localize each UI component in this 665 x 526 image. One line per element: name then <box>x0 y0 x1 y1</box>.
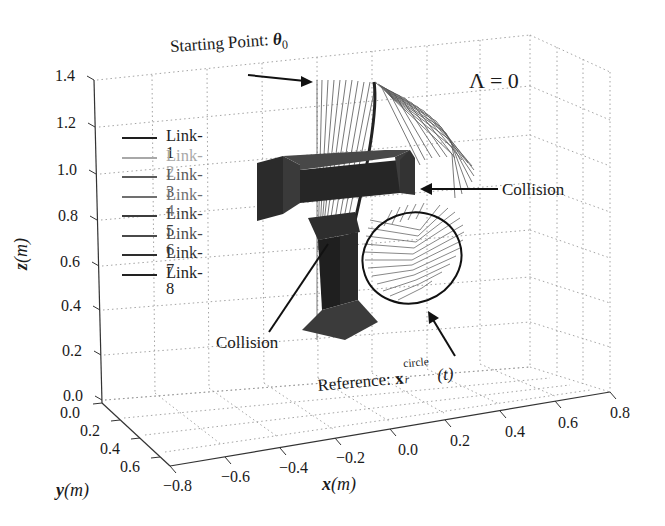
x-axis-label: x(m) <box>322 475 356 493</box>
x-tick-neg0.6: −0.6 <box>221 469 250 485</box>
collision-label-lower: Collision <box>216 334 278 351</box>
z-tick-0.4: 0.4 <box>61 298 81 314</box>
x-tick-0.8: 0.8 <box>610 405 630 421</box>
lambda-annotation: Λ = 0 <box>469 70 519 92</box>
y-tick-0.6: 0.6 <box>120 459 140 475</box>
y-axis-label: y(m) <box>56 481 89 499</box>
y-tick-0.2: 0.2 <box>80 423 100 439</box>
z-tick-1.2: 1.2 <box>56 115 76 131</box>
x-tick-0.0: 0.0 <box>398 442 418 458</box>
x-tick-neg0.4: −0.4 <box>279 460 308 476</box>
legend-swatch <box>122 196 157 198</box>
legend-swatch <box>122 157 157 159</box>
reference-circle <box>350 199 475 318</box>
x-tick-neg0.2: −0.2 <box>336 450 365 466</box>
x-tick-neg0.8: −0.8 <box>163 478 192 494</box>
lower-obstacle <box>302 212 378 340</box>
z-tick-0.2: 0.2 <box>62 343 82 359</box>
x-tick-0.4: 0.4 <box>505 424 525 440</box>
z-tick-1.4: 1.4 <box>55 68 75 84</box>
collision-label-upper: Collision <box>502 181 564 198</box>
z-tick-0.8: 0.8 <box>58 208 78 224</box>
y-tick-0.4: 0.4 <box>100 441 120 457</box>
z-axis-label: z(m) <box>12 238 30 270</box>
y-tick-0.0: 0.0 <box>60 405 80 421</box>
x-tick-0.6: 0.6 <box>558 415 578 431</box>
z-tick-0.6: 0.6 <box>60 254 80 270</box>
z-tick-1.0: 1.0 <box>57 162 77 178</box>
legend-swatch <box>122 235 157 237</box>
z-tick-0.0: 0.0 <box>63 388 83 404</box>
legend-swatch <box>122 215 157 217</box>
legend-swatch <box>122 137 157 139</box>
reference-circle-group <box>350 199 475 318</box>
upper-obstacle <box>257 150 415 221</box>
legend-swatch <box>122 274 157 276</box>
legend-swatch <box>122 176 157 178</box>
x-tick-0.2: 0.2 <box>450 433 470 449</box>
legend-swatch <box>122 254 157 256</box>
